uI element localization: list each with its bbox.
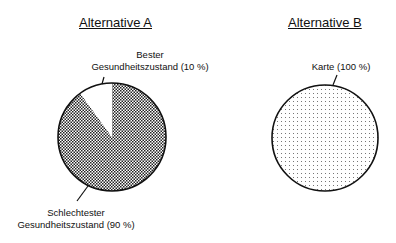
label-worst-health: Schlechtester Gesundheitszustand (90 %) <box>14 207 138 231</box>
label-card: Karte (100 %) <box>306 61 376 73</box>
leader-line-card <box>333 75 337 85</box>
chart-title-b: Alternative B <box>288 15 362 30</box>
leader-line-worst <box>77 186 88 201</box>
chart-title-a: Alternative A <box>79 15 152 30</box>
pie-alternative-a <box>58 77 166 201</box>
slice-card <box>272 85 378 191</box>
label-best-health: Bester Gesundheitszustand (10 %) <box>88 49 212 73</box>
pie-alternative-b <box>272 75 378 191</box>
